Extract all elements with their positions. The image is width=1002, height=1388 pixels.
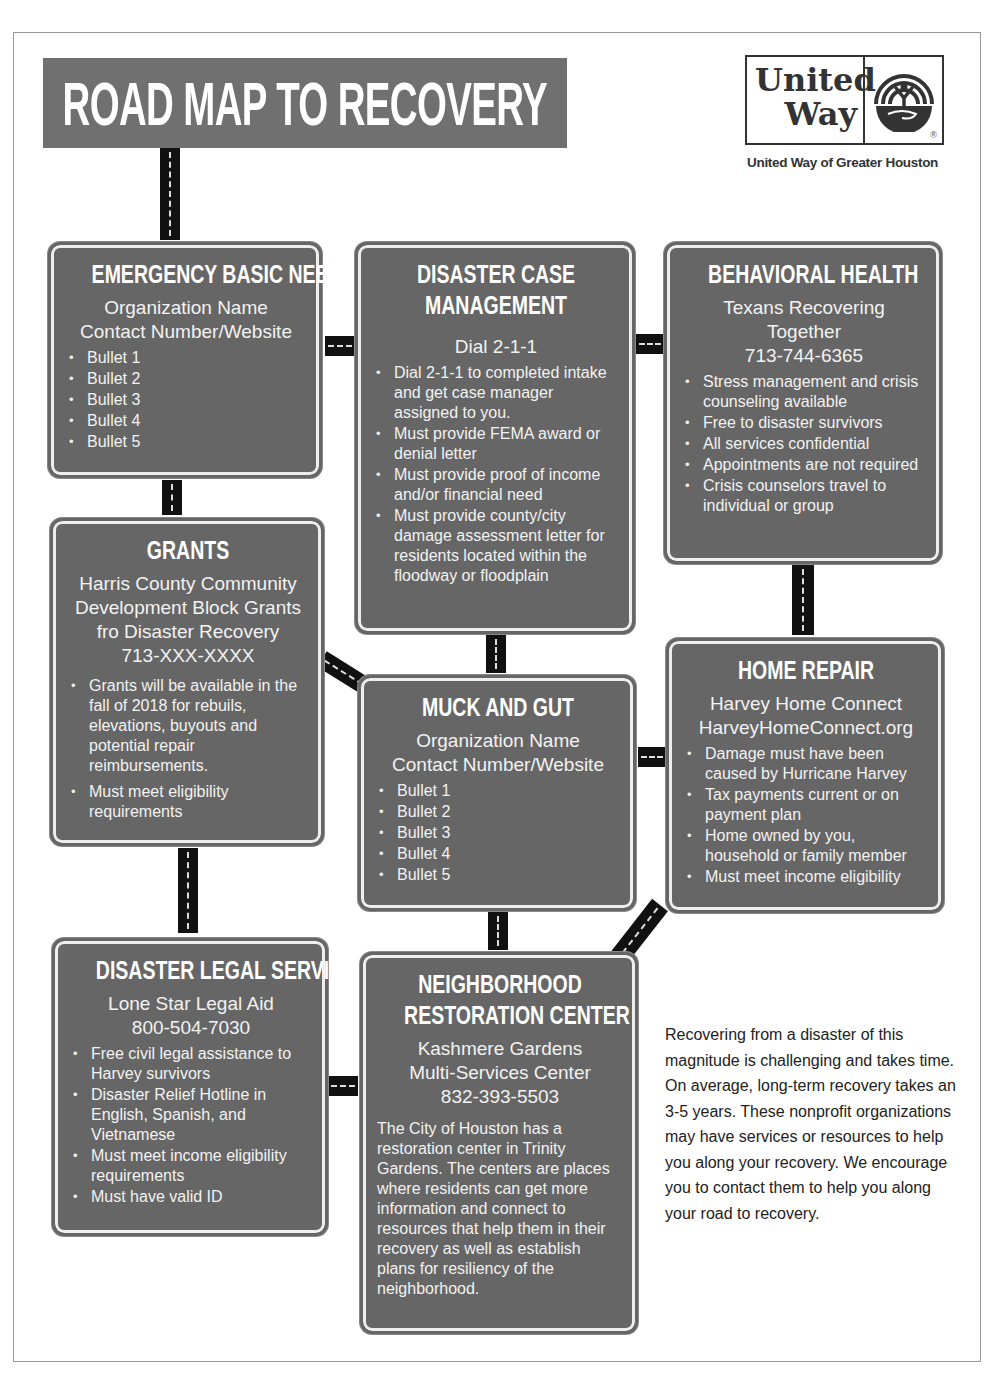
united-way-logo: United Way ® — [745, 55, 944, 145]
list-item: Home owned by you, household or family m… — [683, 826, 929, 866]
road-case-to-muck — [486, 635, 506, 673]
sign-disaster-case-management: DISASTER CASE MANAGEMENT Dial 2-1-1 Dial… — [355, 242, 635, 634]
list-item: Bullet 1 — [375, 781, 621, 801]
sign-bullets: Dial 2-1-1 to completed intake and get c… — [372, 363, 620, 586]
sign-home-repair: HOME REPAIR Harvey Home Connect HarveyHo… — [666, 638, 944, 913]
list-item: Free civil legal assistance to Harvey su… — [69, 1044, 313, 1084]
road-title-to-emergency — [160, 148, 180, 240]
logo-wordmark: United Way — [747, 57, 865, 143]
list-item: Grants will be available in the fall of … — [67, 676, 309, 776]
list-item: Dial 2-1-1 to completed intake and get c… — [372, 363, 620, 423]
sign-grants: GRANTS Harris County Community Developme… — [50, 518, 324, 846]
sign-title: EMERGENCY BASIC NEEDS — [92, 259, 281, 290]
sign-title: DISASTER LEGAL SERVICES — [96, 955, 286, 986]
page-title: ROAD MAP TO RECOVERY — [63, 68, 548, 139]
list-item: Must meet eligibility requirements — [67, 782, 309, 822]
sign-muck-and-gut: MUCK AND GUT Organization Name Contact N… — [358, 675, 636, 911]
road-muck-to-restoration — [488, 912, 508, 950]
list-item: Bullet 1 — [65, 348, 307, 368]
sign-emergency-basic-needs: EMERGENCY BASIC NEEDS Organization Name … — [48, 242, 322, 478]
list-item: Bullet 2 — [65, 369, 307, 389]
list-item: Disaster Relief Hotline in English, Span… — [69, 1085, 313, 1145]
sign-title: HOME REPAIR — [710, 655, 902, 686]
road-emergency-to-case — [325, 336, 355, 356]
united-way-hand-emblem-icon: ® — [865, 57, 942, 143]
list-item: Must provide county/city damage assessme… — [372, 506, 620, 586]
intro-paragraph: Recovering from a disaster of this magni… — [665, 1022, 965, 1226]
list-item: Must meet income eligibility — [683, 867, 929, 887]
sign-organization: Harris County Community Development Bloc… — [67, 572, 309, 668]
sign-organization: Organization Name Contact Number/Website — [65, 296, 307, 344]
road-emergency-to-grants — [162, 480, 182, 515]
list-item: Stress management and crisis counseling … — [681, 372, 927, 412]
sign-organization: Kashmere Gardens Multi-Services Center 8… — [377, 1037, 623, 1109]
list-item: Must meet income eligibility requirement… — [69, 1146, 313, 1186]
sign-behavioral-health: BEHAVIORAL HEALTH Texans Recovering Toge… — [664, 242, 942, 564]
sign-organization: Organization Name Contact Number/Website — [375, 729, 621, 777]
sign-neighborhood-restoration-center: NEIGHBORHOOD RESTORATION CENTER Kashmere… — [360, 952, 638, 1334]
sign-organization: Dial 2-1-1 — [372, 335, 620, 359]
logo-line-2: Way — [755, 97, 857, 131]
logo-line-1: United — [755, 63, 857, 97]
sign-title: DISASTER CASE MANAGEMENT — [399, 259, 592, 321]
sign-disaster-legal-services: DISASTER LEGAL SERVICES Lone Star Legal … — [52, 938, 328, 1236]
sign-description: The City of Houston has a restoration ce… — [377, 1119, 623, 1299]
logo-caption: United Way of Greater Houston — [747, 155, 938, 170]
road-legal-to-restoration — [328, 1076, 358, 1096]
sign-bullets: Grants will be available in the fall of … — [67, 676, 309, 822]
sign-organization: Texans Recovering Together 713-744-6365 — [681, 296, 927, 368]
list-item: Tax payments current or on payment plan — [683, 785, 929, 825]
list-item: Bullet 4 — [375, 844, 621, 864]
sign-title: GRANTS — [94, 535, 283, 566]
list-item: Bullet 3 — [375, 823, 621, 843]
sign-title: MUCK AND GUT — [402, 692, 594, 723]
list-item: All services confidential — [681, 434, 927, 454]
list-item: Appointments are not required — [681, 455, 927, 475]
sign-bullets: Bullet 1 Bullet 2 Bullet 3 Bullet 4 Bull… — [375, 781, 621, 885]
road-case-to-behavioral — [636, 334, 664, 354]
list-item: Damage must have been caused by Hurrican… — [683, 744, 929, 784]
registered-mark: ® — [930, 130, 937, 140]
road-grants-to-legal — [178, 848, 198, 933]
sign-bullets: Stress management and crisis counseling … — [681, 372, 927, 516]
sign-organization: Lone Star Legal Aid 800-504-7030 — [69, 992, 313, 1040]
sign-bullets: Free civil legal assistance to Harvey su… — [69, 1044, 313, 1207]
list-item: Crisis counselors travel to individual o… — [681, 476, 927, 516]
list-item: Must have valid ID — [69, 1187, 313, 1207]
list-item: Bullet 3 — [65, 390, 307, 410]
road-muck-to-home — [638, 747, 666, 767]
sign-bullets: Damage must have been caused by Hurrican… — [683, 744, 929, 887]
list-item: Free to disaster survivors — [681, 413, 927, 433]
sign-bullets: Bullet 1 Bullet 2 Bullet 3 Bullet 4 Bull… — [65, 348, 307, 452]
list-item: Bullet 4 — [65, 411, 307, 431]
list-item: Bullet 2 — [375, 802, 621, 822]
road-behavioral-to-home — [792, 565, 814, 635]
sign-title: NEIGHBORHOOD RESTORATION CENTER — [404, 969, 596, 1031]
sign-organization: Harvey Home Connect HarveyHomeConnect.or… — [683, 692, 929, 740]
list-item: Bullet 5 — [65, 432, 307, 452]
list-item: Must provide proof of income and/or fina… — [372, 465, 620, 505]
title-banner: ROAD MAP TO RECOVERY — [43, 58, 567, 148]
list-item: Must provide FEMA award or denial letter — [372, 424, 620, 464]
list-item: Bullet 5 — [375, 865, 621, 885]
sign-title: BEHAVIORAL HEALTH — [708, 259, 900, 290]
